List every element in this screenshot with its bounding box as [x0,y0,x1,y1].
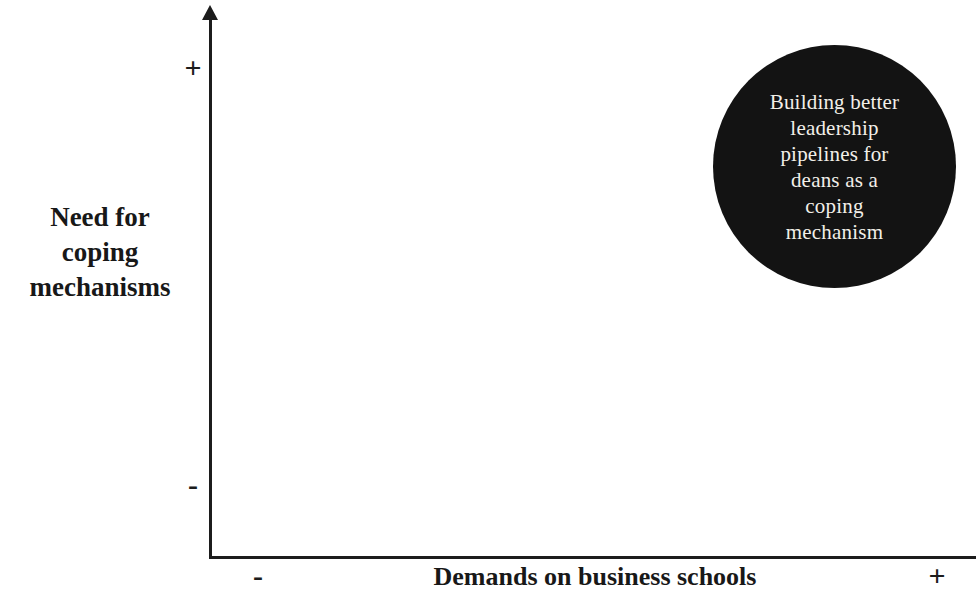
bubble-label-line-6: mechanism [770,219,900,245]
bubble-label-line-2: leadership [770,115,900,141]
bubble-label-line-1: Building better [770,89,900,115]
y-axis-title-line-1: Need for [0,200,200,235]
bubble-label-line-5: coping [770,193,900,219]
y-axis-min-label: - [178,470,208,500]
y-axis-max-label: + [178,53,208,83]
bubble-label: Building better leadership pipelines for… [748,89,922,245]
bubble-label-line-3: pipelines for [770,141,900,167]
x-axis-title: Demands on business schools [300,563,890,591]
bubble-data-point[interactable]: Building better leadership pipelines for… [713,45,956,288]
x-axis-max-label: + [922,561,952,591]
x-axis-line [209,556,976,559]
y-axis-title: Need for coping mechanisms [0,200,200,305]
y-axis-line [209,18,212,559]
chart-canvas: + - - + Need for coping mechanisms Deman… [0,0,976,591]
y-axis-title-line-3: mechanisms [0,270,200,305]
y-axis-title-line-2: coping [0,235,200,270]
x-axis-min-label: - [243,561,273,591]
bubble-label-line-4: deans as a [770,167,900,193]
